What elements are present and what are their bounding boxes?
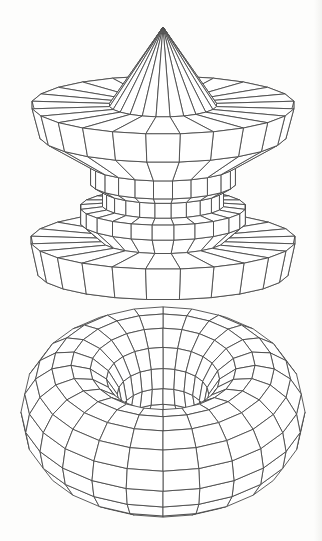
wire-face [82,263,115,297]
wire-face [211,263,244,297]
wire-face [207,175,221,196]
wire-face [97,218,112,236]
wire-face [83,128,116,160]
wire-face [163,415,192,431]
wire-face [112,267,147,300]
wire-face [135,180,153,199]
wire-face [134,415,163,431]
wire-face [113,222,132,239]
wire-face [131,224,152,240]
wire-face [126,469,163,492]
wire-face [127,448,163,472]
wire-face [154,181,173,199]
wire-face [171,202,186,218]
wire-face [173,180,191,199]
wire-face [163,369,175,390]
wire-face [113,132,147,162]
wire-face [186,201,200,218]
wire-face [152,225,174,240]
wire-face [163,389,175,406]
wire-face [105,175,119,196]
wire-face [163,469,200,492]
wire-face [174,224,195,240]
wire-face [163,429,196,450]
page-edge-shading [314,0,322,541]
wire-face [163,489,200,508]
wire-face [151,369,163,390]
wire-face [154,199,173,203]
wire-face [191,178,208,198]
wire-face [119,178,136,198]
wire-face [155,203,171,218]
wireframe-illustration [0,0,322,541]
wire-face [211,128,244,160]
wire-face [130,429,163,450]
wire-face [126,201,140,218]
wire-face [146,269,181,300]
wire-face [140,202,155,218]
wire-face [152,218,174,225]
wire-face [126,489,163,508]
wire-face [200,198,211,215]
wire-face [179,132,213,162]
torus-wireframe [21,307,305,517]
wire-face [151,389,163,406]
spinning-top-wireframe [31,27,295,300]
wire-face [146,134,180,162]
wire-face [214,218,229,236]
wire-face [115,198,126,215]
wire-face [152,240,174,253]
wire-face [163,448,199,472]
figure-canvas [0,0,322,541]
wire-face [195,222,214,239]
wire-face [179,267,214,300]
